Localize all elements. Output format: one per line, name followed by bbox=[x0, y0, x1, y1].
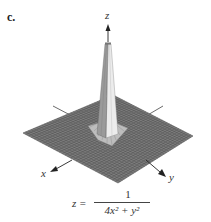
z-axis-label: z bbox=[105, 9, 109, 21]
surface-equation: z = 1 4x² + y² bbox=[72, 188, 162, 220]
x-axis-label: x bbox=[41, 167, 46, 179]
spike-cap bbox=[105, 43, 111, 45]
y-axis-arrowhead bbox=[158, 169, 166, 177]
equation-denominator: 4x² + y² bbox=[94, 204, 150, 216]
y-axis-label: y bbox=[169, 171, 174, 183]
fraction-bar bbox=[94, 202, 150, 203]
equation-lhs: z = bbox=[72, 197, 86, 209]
x-axis-arrowhead bbox=[50, 166, 58, 172]
equation-numerator: 1 bbox=[108, 188, 148, 200]
z-axis-arrowhead bbox=[106, 24, 111, 31]
y-axis bbox=[146, 160, 160, 172]
x-axis bbox=[56, 160, 72, 169]
